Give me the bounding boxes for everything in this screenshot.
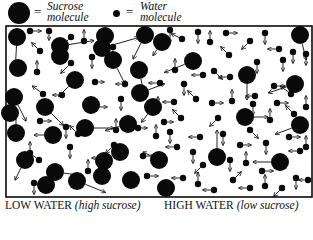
- water-molecule: [220, 131, 226, 137]
- sucrose-molecule: [236, 108, 254, 126]
- sucrose-molecule: [184, 52, 202, 70]
- water-molecule: [259, 168, 265, 174]
- water-molecule: [237, 142, 243, 148]
- water-molecule: [155, 105, 161, 111]
- water-molecule: [36, 157, 42, 163]
- motion-arrow: [106, 147, 112, 153]
- high-sucrose-label: (high sucrose): [75, 199, 141, 211]
- high-water-caption: HIGH WATER (low sucrose): [164, 199, 298, 211]
- sucrose-molecule: [119, 115, 137, 133]
- water-molecule: [100, 155, 106, 161]
- water-molecule: [252, 93, 258, 99]
- water-molecule: [286, 134, 292, 140]
- water-molecule: [215, 115, 221, 121]
- water-molecule: [92, 79, 98, 85]
- water-molecule: [174, 144, 180, 150]
- water-molecule: [254, 59, 260, 65]
- water-molecule: [290, 49, 296, 55]
- water-molecule: [263, 140, 269, 146]
- water-molecule: [93, 104, 99, 110]
- water-molecule: [243, 160, 249, 166]
- motion-arrow: [216, 73, 222, 79]
- water-molecule: [200, 72, 206, 78]
- sucrose-molecule: [7, 124, 25, 142]
- motion-arrow: [18, 105, 26, 121]
- water-molecule: [34, 69, 40, 75]
- motion-arrow: [15, 168, 21, 180]
- water-molecule: [68, 34, 74, 40]
- water-molecule: [227, 74, 233, 80]
- water-molecule: [190, 149, 196, 155]
- water-molecule: [178, 115, 184, 121]
- sucrose-molecule: [286, 75, 304, 93]
- water-molecule: [280, 57, 286, 63]
- water-molecule: [75, 131, 81, 137]
- water-molecule: [167, 129, 173, 135]
- motion-arrow: [276, 128, 292, 134]
- motion-arrow: [111, 38, 139, 46]
- water-molecule: [211, 187, 217, 193]
- motion-arrow: [221, 47, 227, 53]
- motion-arrow: [32, 86, 40, 92]
- sucrose-molecule: [66, 71, 84, 89]
- sucrose-molecule: [122, 171, 140, 189]
- water-molecule: [59, 92, 65, 98]
- water-molecule: [63, 124, 69, 130]
- motion-arrow: [85, 184, 105, 192]
- water-molecule: [157, 80, 163, 86]
- sucrose-molecule: [150, 151, 168, 169]
- water-molecule: [197, 134, 203, 140]
- motion-arrow: [142, 114, 148, 122]
- water-molecule: [37, 48, 43, 54]
- water-molecule: [305, 177, 311, 183]
- motion-arrow: [32, 43, 38, 49]
- low-water-label: LOW WATER: [5, 199, 72, 211]
- water-molecule: [113, 127, 119, 133]
- motion-arrow: [171, 34, 179, 38]
- water-molecule: [195, 181, 201, 187]
- water-molecule: [81, 38, 87, 44]
- water-molecule: [207, 39, 213, 45]
- water-molecule: [181, 81, 187, 87]
- water-molecule: [247, 127, 253, 133]
- motion-arrow: [252, 132, 258, 138]
- water-molecule: [85, 168, 91, 174]
- water-molecule: [180, 175, 186, 181]
- sucrose-molecule: [271, 153, 289, 171]
- water-molecule: [274, 100, 280, 106]
- low-sucrose-label: (low sucrose): [237, 199, 299, 211]
- motion-arrow: [210, 120, 216, 126]
- water-molecule: [144, 173, 150, 179]
- motion-arrow: [286, 106, 292, 112]
- sucrose-molecule: [37, 176, 55, 194]
- water-molecule: [227, 157, 233, 163]
- water-molecule: [167, 27, 173, 33]
- sucrose-molecule: [1, 104, 19, 122]
- water-molecule: [195, 29, 201, 35]
- sucrose-molecule: [131, 84, 149, 102]
- sucrose-molecule: [238, 66, 256, 84]
- water-molecule: [118, 96, 124, 102]
- water-molecule: [161, 119, 167, 125]
- sucrose-molecule: [130, 61, 148, 79]
- high-water-label: HIGH WATER: [164, 199, 234, 211]
- motion-arrow: [274, 190, 280, 196]
- water-molecule: [288, 91, 294, 97]
- water-molecule: [153, 133, 159, 139]
- water-molecule: [279, 185, 285, 191]
- water-molecule: [297, 148, 303, 154]
- water-molecule: [211, 68, 217, 74]
- motion-arrow: [195, 167, 201, 173]
- sucrose-molecule: [5, 88, 23, 106]
- water-molecule: [135, 125, 141, 131]
- water-molecule: [303, 104, 309, 110]
- sucrose-molecule: [8, 28, 26, 46]
- water-molecule: [104, 50, 110, 56]
- water-molecule: [111, 142, 117, 148]
- water-molecule: [247, 38, 253, 44]
- sucrose-molecule: [51, 47, 69, 65]
- motion-arrow: [153, 49, 157, 55]
- water-molecules: [27, 27, 311, 193]
- water-molecule: [271, 83, 277, 89]
- water-molecule: [230, 177, 236, 183]
